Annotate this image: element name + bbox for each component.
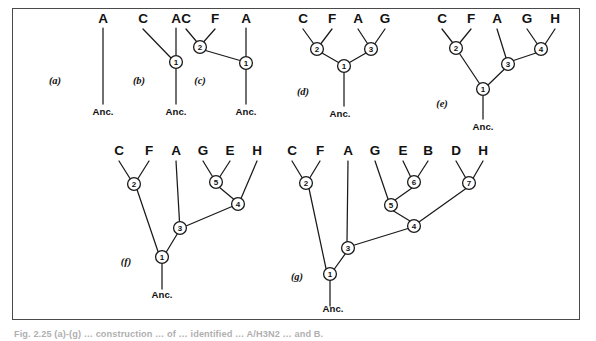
figure-caption: Fig. 2.25 (a)-(g) … construction … of … … bbox=[14, 329, 574, 341]
ancestor-label: Anc. bbox=[93, 106, 114, 117]
taxon-label-E: E bbox=[398, 143, 407, 158]
branch-line bbox=[403, 161, 411, 177]
branch-line bbox=[456, 161, 466, 178]
branch-line bbox=[166, 234, 178, 253]
branch-line bbox=[309, 189, 326, 269]
internal-node-label-1: 1 bbox=[174, 58, 179, 67]
branch-line bbox=[355, 229, 409, 246]
phylogenetic-trees-canvas: AAnc.(a)1CAAnc.(b)21CFAAnc.(c)231CFAGAnc… bbox=[0, 0, 596, 341]
branch-line bbox=[527, 29, 537, 44]
taxon-label-F: F bbox=[211, 11, 219, 26]
branch-line bbox=[474, 161, 484, 178]
internal-node-label-2: 2 bbox=[315, 45, 320, 54]
internal-node-label-4: 4 bbox=[412, 222, 417, 231]
branch-line bbox=[460, 54, 480, 84]
branch-line bbox=[321, 29, 332, 44]
taxon-label-F: F bbox=[145, 143, 153, 158]
ancestor-label: Anc. bbox=[330, 108, 351, 119]
internal-node-label-5: 5 bbox=[389, 201, 394, 210]
branch-line bbox=[186, 29, 197, 42]
internal-node-label-1: 1 bbox=[160, 253, 165, 262]
tree-panel-c: 21CFAAnc.(c) bbox=[181, 11, 256, 117]
taxon-label-B: B bbox=[423, 143, 433, 158]
taxon-label-A: A bbox=[171, 143, 181, 158]
taxon-label-G: G bbox=[198, 143, 209, 158]
taxon-label-C: C bbox=[181, 11, 191, 26]
panel-label-e: (e) bbox=[436, 98, 448, 110]
tree-panel-b: 1CAAnc.(b) bbox=[133, 11, 187, 117]
branch-line bbox=[514, 53, 537, 61]
branch-line bbox=[219, 187, 234, 200]
panel-label-f: (f) bbox=[121, 256, 132, 268]
taxon-label-E: E bbox=[225, 143, 234, 158]
panel-label-d: (d) bbox=[297, 86, 309, 98]
taxon-label-A: A bbox=[353, 11, 363, 26]
internal-node-label-1: 1 bbox=[342, 62, 347, 71]
taxon-label-A: A bbox=[98, 11, 108, 26]
branch-line bbox=[138, 161, 149, 179]
branch-line bbox=[347, 161, 348, 242]
internal-node-label-3: 3 bbox=[178, 224, 183, 233]
taxon-label-C: C bbox=[138, 11, 148, 26]
tree-panel-d: 231CFAGAnc.(d) bbox=[297, 11, 390, 119]
branch-line bbox=[220, 161, 230, 177]
branch-line bbox=[119, 161, 130, 179]
branch-line bbox=[204, 29, 215, 42]
branch-line bbox=[334, 254, 346, 270]
ancestor-label: Anc. bbox=[323, 303, 344, 314]
branch-line bbox=[394, 211, 411, 221]
taxon-label-A: A bbox=[492, 11, 502, 26]
taxon-label-G: G bbox=[380, 11, 391, 26]
taxon-label-C: C bbox=[114, 143, 124, 158]
panel-label-b: (b) bbox=[133, 75, 145, 87]
internal-node-label-3: 3 bbox=[369, 45, 374, 54]
taxon-label-C: C bbox=[437, 11, 447, 26]
branch-line bbox=[395, 188, 412, 200]
tree-panel-f: 25431CFAGEHAnc.(f) bbox=[114, 143, 262, 300]
ancestor-label: Anc. bbox=[166, 106, 187, 117]
branch-line bbox=[375, 29, 385, 44]
branch-line bbox=[488, 70, 504, 86]
panel-label-g: (g) bbox=[291, 271, 303, 283]
taxon-label-A: A bbox=[343, 143, 353, 158]
ancestor-label: Anc. bbox=[236, 106, 257, 117]
panels-root: AAnc.(a)1CAAnc.(b)21CFAAnc.(c)231CFAGAnc… bbox=[49, 11, 560, 314]
branch-line bbox=[418, 161, 428, 177]
branch-line bbox=[358, 29, 368, 44]
branch-line bbox=[419, 189, 466, 223]
taxon-label-D: D bbox=[451, 143, 461, 158]
branch-line bbox=[460, 29, 471, 43]
branch-line bbox=[206, 51, 241, 61]
branch-line bbox=[322, 53, 339, 63]
branch-line bbox=[442, 29, 453, 43]
branch-line bbox=[497, 29, 506, 58]
ancestor-label: Anc. bbox=[152, 289, 173, 300]
taxon-label-C: C bbox=[298, 11, 308, 26]
tree-panel-a: AAnc.(a) bbox=[49, 11, 114, 117]
branch-line bbox=[186, 207, 232, 227]
taxon-label-H: H bbox=[478, 143, 488, 158]
figure-caption-text: Fig. 2.25 (a)-(g) … construction … of … … bbox=[14, 329, 574, 340]
branch-line bbox=[303, 29, 314, 44]
branch-line bbox=[546, 29, 556, 44]
taxon-label-F: F bbox=[316, 143, 324, 158]
taxon-label-A: A bbox=[241, 11, 251, 26]
internal-node-label-4: 4 bbox=[539, 45, 544, 54]
internal-node-label-3: 3 bbox=[506, 60, 511, 69]
branch-line bbox=[203, 161, 213, 177]
internal-node-label-7: 7 bbox=[467, 179, 472, 188]
branch-line bbox=[137, 190, 158, 252]
internal-node-label-6: 6 bbox=[412, 178, 417, 187]
branch-line bbox=[310, 161, 320, 178]
tree-panel-g: 2675431CFAGEBDHAnc.(g) bbox=[287, 143, 488, 314]
internal-node-label-4: 4 bbox=[236, 200, 241, 209]
branch-line bbox=[241, 161, 257, 199]
panel-label-c: (c) bbox=[194, 75, 206, 87]
internal-node-label-2: 2 bbox=[198, 43, 203, 52]
internal-node-label-1: 1 bbox=[328, 270, 333, 279]
internal-node-label-1: 1 bbox=[481, 85, 486, 94]
taxon-label-G: G bbox=[370, 143, 381, 158]
branch-line bbox=[143, 29, 172, 59]
taxon-label-H: H bbox=[550, 11, 560, 26]
internal-node-label-1: 1 bbox=[244, 59, 249, 68]
